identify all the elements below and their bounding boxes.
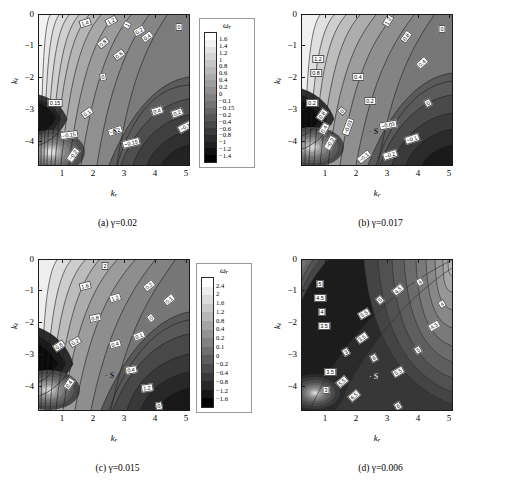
y-tick-0: 0 — [30, 10, 35, 19]
y-tick-2: −2 — [287, 318, 297, 327]
y-tick-3: −3 — [287, 105, 297, 114]
colorbar-band — [202, 287, 213, 296]
contour-label: 4.5 — [314, 294, 326, 302]
colorbar-band — [202, 347, 213, 356]
colorbar-tick-label: −1.4 — [219, 153, 231, 160]
colorbar-band — [202, 278, 213, 287]
x-tick-4: 4 — [153, 414, 158, 423]
x-tick-1: 1 — [323, 414, 328, 423]
y-tick-0: 0 — [293, 255, 298, 264]
colorbar-tick-label: −0.2 — [216, 361, 228, 368]
colorbar-band — [205, 53, 216, 60]
colorbar-title-c: ωr — [197, 266, 251, 275]
x-tick-4: 4 — [416, 414, 421, 423]
saddle-point-marker-b: · S — [369, 127, 378, 136]
contour-label: 0 — [439, 25, 446, 33]
x-tick-2: 2 — [354, 169, 359, 178]
colorbar-band — [202, 398, 213, 407]
colorbar-c: ωr 2.421.61.20.80.40.20.10−0.2−0.4−0.8−1… — [196, 263, 252, 413]
colorbar-band — [202, 390, 213, 399]
saddle-point-marker-c: · S — [105, 371, 114, 380]
contour-plot-a: 1.41.210.80.60.40.200.150.10.40.2−0.1−0.… — [38, 14, 190, 166]
colorbar-band — [205, 128, 216, 135]
colorbar-tick-label: 0.1 — [216, 344, 224, 351]
colorbar-strip-a — [204, 32, 217, 163]
figure-contour-panels: 1.41.210.80.60.40.200.150.10.40.2−0.1−0.… — [0, 0, 526, 491]
x-tick-3: 3 — [122, 414, 127, 423]
contour-label: 0.2 — [306, 99, 318, 107]
contour-label: 0.2 — [364, 97, 376, 105]
contour-label: 4 — [319, 308, 326, 316]
colorbar-band — [205, 135, 216, 142]
colorbar-band — [205, 33, 216, 40]
colorbar-band — [205, 67, 216, 74]
x-tick-3: 3 — [122, 169, 127, 178]
contour-svg-c — [39, 260, 189, 410]
x-tick-1: 1 — [323, 169, 328, 178]
colorbar-band — [202, 304, 213, 313]
contour-label: 0 — [176, 23, 183, 31]
contour-label: 2 — [102, 262, 109, 270]
colorbar-tick-label: 2.4 — [216, 282, 224, 289]
contour-svg-a — [39, 15, 189, 165]
y-tick-3: −3 — [24, 350, 34, 359]
x-axis-label: kr — [374, 188, 381, 198]
colorbar-band — [202, 312, 213, 321]
colorbar-band — [202, 338, 213, 347]
panel-a: 1.41.210.80.60.40.200.150.10.40.2−0.1−0.… — [0, 0, 263, 245]
caption-a: (a) γ=0.02 — [0, 218, 235, 228]
caption-b: (b) γ=0.017 — [263, 218, 498, 228]
caption-c: (c) γ=0.015 — [0, 463, 235, 473]
colorbar-ticks-a: 1.61.41.210.80.60.40.20−0.1−0.15−0.2−0.4… — [219, 32, 253, 163]
x-axis-label: kr — [111, 188, 118, 198]
x-tick-5: 5 — [184, 414, 189, 423]
panel-b: 1.21.20.80.80.40.40.20.200−0.03−0.03−0.1… — [263, 0, 526, 245]
plot-area-b: 1.21.20.80.80.40.40.20.200−0.03−0.03−0.1… — [301, 14, 453, 166]
contour-plot-b: 1.21.20.80.80.40.40.20.200−0.03−0.03−0.1… — [301, 14, 453, 166]
colorbar-tick-label: 1.2 — [216, 309, 224, 316]
contour-label: 1.2 — [312, 55, 324, 63]
y-tick-2: −2 — [24, 318, 34, 327]
colorbar-band — [205, 80, 216, 87]
colorbar-band — [202, 295, 213, 304]
colorbar-strip-c — [201, 277, 214, 408]
colorbar-band — [205, 47, 216, 54]
x-tick-4: 4 — [153, 169, 158, 178]
y-tick-2: −2 — [24, 73, 34, 82]
contour-label: 0.15 — [48, 99, 63, 107]
x-tick-4: 4 — [416, 169, 421, 178]
x-tick-1: 1 — [60, 414, 65, 423]
colorbar-band — [205, 121, 216, 128]
contour-plot-d: 54.543.55.554.543.5365.554.543.536.565.5 — [301, 259, 453, 411]
contour-label: 0.8 — [310, 69, 322, 77]
colorbar-tick-label: −0.4 — [216, 370, 228, 377]
colorbar-band — [202, 321, 213, 330]
colorbar-band — [202, 373, 213, 382]
x-tick-5: 5 — [447, 169, 452, 178]
colorbar-tick-label: 2 — [216, 291, 219, 298]
contour-label: 3.5 — [324, 368, 336, 376]
colorbar-title-a: ωr — [200, 21, 254, 30]
contour-label: 3 — [323, 386, 330, 394]
x-tick-5: 5 — [184, 169, 189, 178]
y-tick-0: 0 — [30, 255, 35, 264]
y-tick-4: −4 — [24, 137, 34, 146]
y-tick-2: −2 — [287, 73, 297, 82]
caption-d: (d) γ=0.006 — [263, 463, 498, 473]
colorbar-band — [205, 94, 216, 101]
saddle-point-marker-a: · S — [108, 127, 117, 136]
contour-label: 0.4 — [352, 73, 364, 81]
colorbar-band — [205, 101, 216, 108]
y-tick-1: −1 — [24, 41, 34, 50]
x-tick-3: 3 — [385, 414, 390, 423]
colorbar-ticks-c: 2.421.61.20.80.40.20.10−0.2−0.4−0.8−1.2−… — [216, 277, 250, 408]
colorbar-tick-label: −1.2 — [216, 387, 228, 394]
y-tick-3: −3 — [24, 105, 34, 114]
y-tick-1: −1 — [24, 286, 34, 295]
x-axis-label: kr — [111, 433, 118, 443]
colorbar-tick-label: 0.8 — [216, 317, 224, 324]
y-axis-label: ki — [9, 323, 19, 329]
panel-d: 54.543.55.554.543.5365.554.543.536.565.5… — [263, 245, 526, 490]
colorbar-tick-label: 0.4 — [216, 326, 224, 333]
y-tick-0: 0 — [293, 10, 298, 19]
